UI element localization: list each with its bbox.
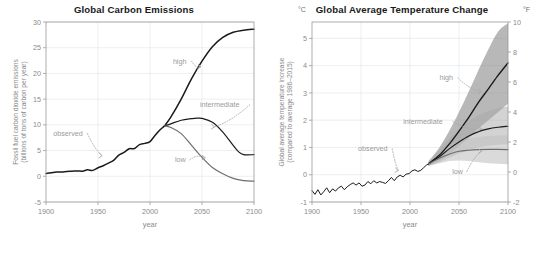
unit-celsius-label: °C <box>298 6 306 13</box>
annotation-label-observed: observed <box>53 129 83 138</box>
x-axis-title: year <box>143 220 158 229</box>
annotation-leader-observed <box>392 149 398 171</box>
xtick-label: 1950 <box>90 207 106 216</box>
annotation-label-observed: observed <box>358 144 388 153</box>
y-axis-title: (compared to average 1986–2015) <box>286 61 294 163</box>
ytick-label: 1 <box>303 143 307 152</box>
ytick-label: 30 <box>33 18 41 27</box>
xtick-label: 2100 <box>500 207 516 216</box>
ytick-label: 20 <box>33 69 41 78</box>
xtick-label: 2000 <box>142 207 158 216</box>
annotation-leader-observed <box>87 134 102 156</box>
x-axis-title: year <box>403 220 418 229</box>
annotation-label-intermediate: intermediate <box>403 117 443 126</box>
xtick-label: 1950 <box>353 207 369 216</box>
chart-panel-emissions: Global Carbon Emissions 1900195020002050… <box>0 0 268 248</box>
ytick-label: 2 <box>303 116 307 125</box>
y-axis-title: (billions of tons of carbon per year) <box>20 61 28 163</box>
chart-title-emissions: Global Carbon Emissions <box>0 4 268 15</box>
ytick-right-label: 8 <box>513 48 517 57</box>
ytick-right-label: 4 <box>513 108 517 117</box>
xtick-label: 2050 <box>194 207 210 216</box>
annotation-arrowhead-observed <box>99 153 102 158</box>
ytick-right-label: 2 <box>513 138 517 147</box>
xtick-label: 1900 <box>38 207 54 216</box>
unit-fahrenheit-label: °F <box>523 6 530 13</box>
ytick-label: 5 <box>303 34 307 43</box>
xtick-label: 2000 <box>402 207 418 216</box>
ytick-label: 3 <box>303 89 307 98</box>
annotation-label-high: high <box>439 73 453 82</box>
series-line-intermediate <box>165 118 254 155</box>
ytick-label: 0 <box>37 172 41 181</box>
ytick-label: 0 <box>303 170 307 179</box>
ytick-right-label: 0 <box>513 168 517 177</box>
series-line-high <box>165 29 254 126</box>
annotation-label-low: low <box>175 155 187 164</box>
ytick-label: 10 <box>33 120 41 129</box>
ytick-label: -5 <box>35 198 41 207</box>
annotation-label-high: high <box>173 57 187 66</box>
ytick-right-label: 10 <box>513 18 521 27</box>
xtick-label: 1900 <box>304 207 320 216</box>
y-axis-title: Global average temperature increase <box>278 57 286 166</box>
annotation-label-intermediate: intermediate <box>200 100 240 109</box>
xtick-label: 2100 <box>246 207 262 216</box>
series-line-observed <box>312 164 429 195</box>
ytick-right-label: -2 <box>513 198 519 207</box>
y-axis-title: Fossil fuel carbon dioxide emissions <box>12 59 19 165</box>
ytick-label: 5 <box>37 146 41 155</box>
xtick-label: 2050 <box>451 207 467 216</box>
annotation-label-low: low <box>452 167 464 176</box>
chart-panel-temperature: Global Average Temperature Change °C °F … <box>268 0 536 248</box>
climate-figure: Global Carbon Emissions 1900195020002050… <box>0 0 536 261</box>
ytick-label: 15 <box>33 95 41 104</box>
temperature-plot: 19001950200020502100year-1012345-2024681… <box>268 0 536 248</box>
ytick-right-label: 6 <box>513 78 517 87</box>
annotation-arrowhead-observed <box>395 168 398 173</box>
ytick-label: 25 <box>33 43 41 52</box>
ytick-label: -1 <box>301 198 307 207</box>
chart-title-temperature: Global Average Temperature Change <box>268 4 536 15</box>
emissions-plot: 19001950200020502100year-5051015202530Fo… <box>0 0 268 248</box>
ytick-label: 4 <box>303 61 307 70</box>
